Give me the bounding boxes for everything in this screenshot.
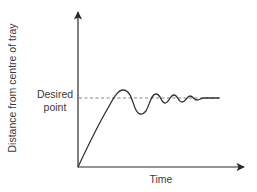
response-curve [78, 90, 219, 167]
desired-point-label-line1: Desired [37, 88, 73, 100]
y-axis-label: Distance from centre of tray [6, 23, 18, 153]
response-diagram: Distance from centre of tray Desired poi… [0, 0, 257, 192]
desired-point-label-line2: point [44, 101, 67, 113]
x-axis-label: Time [150, 173, 173, 185]
